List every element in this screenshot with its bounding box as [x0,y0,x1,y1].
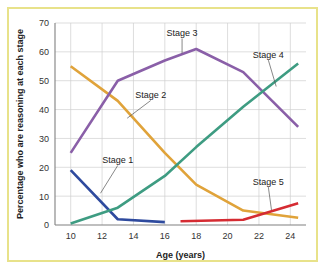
y-tick-label-70: 70 [39,18,49,28]
leader-line-stage-1 [100,165,117,193]
series-label-stage-3: Stage 3 [167,28,198,38]
y-tick-label-40: 40 [39,105,49,115]
y-tick-label-30: 30 [39,134,49,144]
x-tick-label-22: 22 [254,231,264,241]
series-line-stage-3[interactable] [71,49,298,153]
x-tick-label-14: 14 [128,231,138,241]
leader-line-stage-5 [268,187,271,210]
series-line-stage-4[interactable] [71,63,298,223]
x-tick-label-24: 24 [285,231,295,241]
y-tick-label-60: 60 [39,47,49,57]
x-tick-label-12: 12 [97,231,107,241]
series-line-stage-5[interactable] [181,203,299,221]
y-tick-label-0: 0 [44,220,49,230]
x-tick-label-10: 10 [66,231,76,241]
x-tick-label-16: 16 [160,231,170,241]
series-label-stage-2: Stage 2 [135,90,166,100]
y-axis-title: Percentage who are reasoning at each sta… [15,29,25,219]
y-tick-label-10: 10 [39,192,49,202]
y-tick-label-20: 20 [39,163,49,173]
series-label-stage-5: Stage 5 [253,177,284,187]
chart-page: 0102030405060701012141618202224Stage 1St… [0,0,325,280]
series-label-stage-4: Stage 4 [253,50,284,60]
y-tick-label-50: 50 [39,76,49,86]
x-tick-label-20: 20 [223,231,233,241]
series-label-stage-1: Stage 1 [102,155,133,165]
x-axis-title: Age (years) [156,250,205,260]
x-tick-label-18: 18 [191,231,201,241]
line-chart: 0102030405060701012141618202224Stage 1St… [7,7,318,262]
